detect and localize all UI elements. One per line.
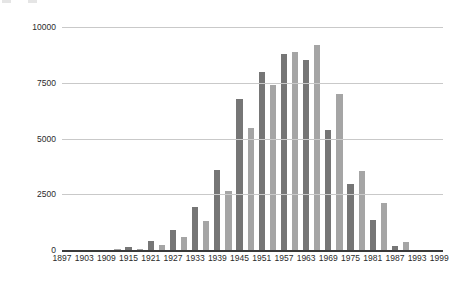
bar (403, 242, 409, 250)
x-axis-tick-label: 1975 (341, 254, 360, 263)
bar (192, 207, 198, 250)
x-axis-tick-label: 1963 (297, 254, 316, 263)
x-axis: 1897190319091915192119271933193919451951… (62, 254, 443, 270)
x-axis-tick-label: 1897 (53, 254, 72, 263)
x-axis-tick-label: 1909 (97, 254, 116, 263)
y-axis-tick-label: 2500 (8, 190, 56, 199)
x-axis-tick-label: 1969 (319, 254, 338, 263)
gridline (62, 139, 443, 140)
bar (325, 130, 331, 250)
x-axis-tick-label: 1933 (186, 254, 205, 263)
y-axis-tick-label: 10000 (8, 23, 56, 32)
bar (225, 191, 231, 250)
x-axis-line (62, 250, 443, 252)
x-axis-tick-label: 1921 (141, 254, 160, 263)
x-axis-tick-label: 1993 (408, 254, 427, 263)
bar (148, 241, 154, 250)
plot-area (62, 27, 443, 250)
bar (303, 60, 309, 250)
x-axis-tick-label: 1981 (363, 254, 382, 263)
y-axis: 025005000750010000 (0, 0, 56, 282)
x-axis-tick-label: 1987 (385, 254, 404, 263)
x-axis-tick-label: 1951 (252, 254, 271, 263)
bar (259, 72, 265, 250)
x-axis-tick-label: 1903 (75, 254, 94, 263)
bar (270, 85, 276, 250)
gridline (62, 194, 443, 195)
gridline (62, 27, 443, 28)
x-axis-tick-label: 1945 (230, 254, 249, 263)
bar (336, 94, 342, 250)
bar (292, 52, 298, 250)
bar-chart: 025005000750010000 189719031909191519211… (0, 0, 451, 282)
bar (314, 45, 320, 250)
bar (214, 170, 220, 250)
bar (381, 203, 387, 250)
bar (236, 99, 242, 250)
bar (359, 171, 365, 250)
gridline (62, 83, 443, 84)
y-axis-tick-label: 0 (8, 246, 56, 255)
bar (248, 128, 254, 250)
x-axis-tick-label: 1939 (208, 254, 227, 263)
y-axis-tick-label: 5000 (8, 135, 56, 144)
x-axis-tick-label: 1915 (119, 254, 138, 263)
x-axis-tick-label: 1927 (164, 254, 183, 263)
bar (170, 230, 176, 250)
bar (370, 220, 376, 250)
x-axis-tick-label: 1957 (274, 254, 293, 263)
bar (181, 237, 187, 250)
bar (203, 221, 209, 250)
y-axis-tick-label: 7500 (8, 79, 56, 88)
x-axis-tick-label: 1999 (430, 254, 449, 263)
